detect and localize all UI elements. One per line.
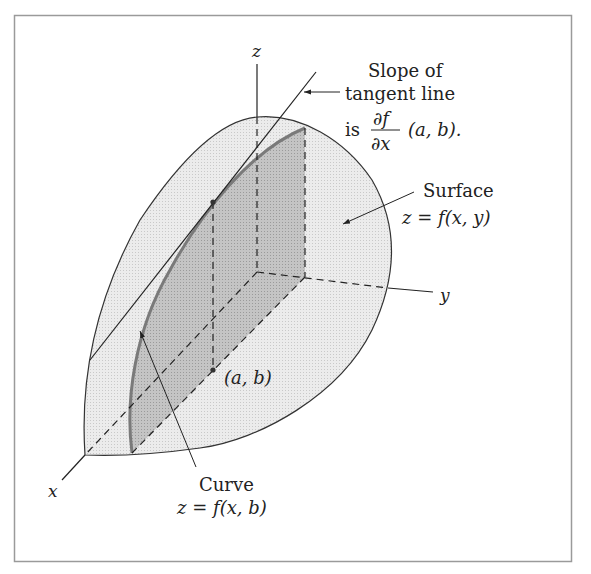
z-axis-label: z xyxy=(251,41,262,61)
partial-derivative-diagram: z y x Slope of tangent line is ∂f ∂x (a,… xyxy=(0,0,591,574)
tangent-label-prefix: is xyxy=(345,119,360,140)
tangent-point xyxy=(210,199,215,204)
surface-label-line1: Surface xyxy=(423,180,494,201)
x-axis-label: x xyxy=(48,481,58,501)
x-axis xyxy=(62,455,85,480)
point-label: (a, b) xyxy=(224,367,272,388)
tangent-label-line1: Slope of xyxy=(368,60,444,81)
curve-label-line2: z = f(x, b) xyxy=(176,497,267,518)
point-a-b xyxy=(210,367,215,372)
surface-label-line2: z = f(x, y) xyxy=(401,207,490,228)
tangent-label-line2: tangent line xyxy=(345,83,455,104)
tangent-frac-den: ∂x xyxy=(371,133,390,154)
tangent-frac-num: ∂f xyxy=(373,108,392,129)
y-axis xyxy=(388,288,433,292)
tangent-label-suffix: (a, b). xyxy=(408,119,461,140)
curve-label-line1: Curve xyxy=(199,474,254,495)
y-axis-label: y xyxy=(439,285,450,305)
